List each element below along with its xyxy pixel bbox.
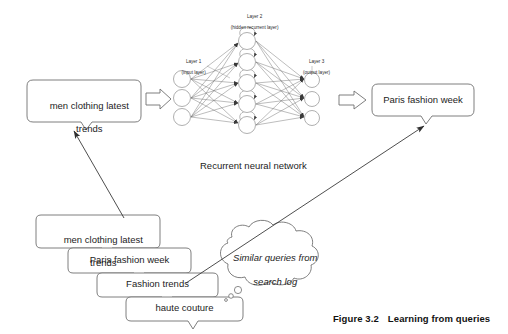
output-layer-nodes — [305, 73, 320, 126]
layer-3-name: Layer 3 — [309, 59, 324, 64]
figure-title: Learning from queries — [388, 313, 490, 324]
layer-2-label: Layer 2 (hidden recurrent layer) — [216, 9, 288, 36]
block-arrow-input-to-network — [146, 89, 171, 109]
output-callout-shape — [372, 84, 474, 124]
figure-caption: Figure 3.2Learning from queries — [322, 302, 490, 334]
input-callout-shape — [27, 80, 141, 130]
layer-3-label: Layer 3 (output layer) — [290, 54, 338, 81]
thought-cloud-text: Similar queries from search log — [218, 240, 322, 300]
query-stack-item-0: men clothing latest trends — [36, 222, 160, 280]
input-callout-line2: trends — [76, 123, 102, 134]
query-stack-shapes — [36, 215, 243, 329]
layer-label-leaders — [207, 66, 312, 78]
input-callout-text: men clothing latest trends — [27, 88, 141, 146]
diagram-vectors — [0, 0, 508, 334]
neural-network-edges — [191, 41, 304, 125]
network-caption: Recurrent neural network — [200, 160, 307, 171]
thought-cloud-shape — [221, 220, 319, 301]
layer-3-sublabel: (output layer) — [303, 70, 330, 75]
block-arrow-network-to-output — [339, 91, 366, 109]
arrow-stack-to-input-callout — [74, 131, 124, 218]
query-stack-item-1: Paris fashion week — [68, 254, 191, 266]
query-stack-item-2: Fashion trends — [97, 278, 218, 290]
thought-cloud-line1: Similar queries from — [233, 252, 317, 263]
figure-number: Figure 3.2 — [333, 313, 379, 324]
hidden-layer-nodes — [239, 33, 256, 134]
arrow-cloud-to-output-callout — [186, 126, 424, 283]
figure-canvas: Layer 1 (input layer) Layer 2 (hidden re… — [0, 0, 508, 334]
query-stack-item-0-line1: men clothing latest — [64, 234, 143, 245]
layer-1-name: Layer 1 — [186, 59, 201, 64]
input-callout-line1: men clothing latest — [50, 100, 129, 111]
layer-2-name: Layer 2 — [247, 14, 262, 19]
thought-cloud-line2: search log — [253, 276, 297, 287]
recurrent-self-loops — [240, 27, 255, 121]
layer-1-label: Layer 1 (input layer) — [168, 54, 214, 81]
query-stack-item-3: haute couture — [126, 302, 243, 314]
layer-2-sublabel: (hidden recurrent layer) — [231, 25, 279, 30]
query-stack-item-0-line2: trends — [90, 257, 116, 268]
output-callout-text: Paris fashion week — [372, 94, 474, 106]
input-layer-nodes — [174, 71, 191, 126]
layer-1-sublabel: (input layer) — [181, 70, 205, 75]
